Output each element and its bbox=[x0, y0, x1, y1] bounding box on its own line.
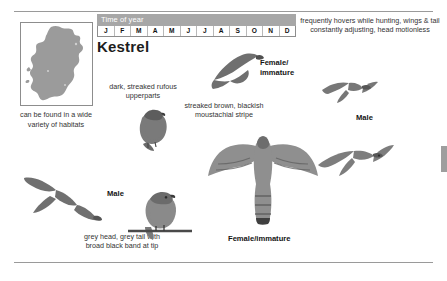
species-title: Kestrel bbox=[97, 38, 149, 55]
body bbox=[55, 190, 77, 206]
bird-male-flight-upper bbox=[318, 72, 380, 112]
tail-terminal-band bbox=[256, 218, 270, 225]
bird-female-immature-banking bbox=[208, 50, 266, 92]
distribution-map bbox=[20, 22, 93, 106]
bird-male-perched bbox=[126, 185, 194, 241]
month-cell: A bbox=[214, 26, 231, 36]
annotation-rufous-upperparts: dark, streaked rufous upperparts bbox=[98, 82, 188, 101]
map-dot-ne bbox=[75, 43, 77, 45]
month-cell: J bbox=[197, 26, 214, 36]
month-cell: M bbox=[131, 26, 148, 36]
tail bbox=[337, 90, 349, 103]
month-cell: M bbox=[164, 26, 181, 36]
month-cell: S bbox=[230, 26, 247, 36]
label-female-immature-top: Female/ immature bbox=[260, 58, 320, 77]
month-cell: N bbox=[263, 26, 280, 36]
field-guide-page: can be found in a wide variety of habita… bbox=[0, 0, 447, 281]
wing-upper bbox=[24, 178, 56, 192]
month-cell: J bbox=[181, 26, 198, 36]
ireland-landmass-shape bbox=[30, 26, 83, 100]
month-cell: F bbox=[115, 26, 132, 36]
ireland-coast-detail bbox=[26, 67, 32, 83]
eye bbox=[165, 196, 168, 199]
tail bbox=[339, 158, 355, 176]
bird-male-flight-left bbox=[20, 168, 106, 230]
eye bbox=[378, 155, 380, 157]
label-male-right: Male bbox=[356, 113, 373, 123]
page-edge-marker bbox=[441, 146, 447, 172]
body-tail bbox=[212, 80, 230, 89]
annotation-hovering-behaviour: frequently hovers while hunting, wings &… bbox=[300, 16, 440, 35]
tail bbox=[33, 196, 56, 213]
month-cell: J bbox=[98, 26, 115, 36]
tail bbox=[145, 227, 153, 240]
bottom-divider-rule bbox=[14, 262, 433, 263]
top-divider-rule bbox=[14, 11, 433, 12]
month-scale: J F M A M J J A S O N D bbox=[97, 26, 296, 37]
map-caption: can be found in a wide variety of habita… bbox=[10, 110, 102, 129]
month-cell: D bbox=[280, 26, 296, 36]
label-male-left: Male bbox=[107, 189, 124, 199]
body bbox=[348, 83, 363, 91]
body bbox=[353, 151, 374, 160]
wing-upper bbox=[214, 54, 258, 80]
month-cell: A bbox=[148, 26, 165, 36]
map-dot-se bbox=[64, 84, 66, 86]
time-of-year-chart: Time of year J F M A M J J A S O N D bbox=[97, 14, 296, 37]
annotation-moustachial-stripe: streaked brown, blackish moustachial str… bbox=[178, 101, 270, 120]
time-of-year-header: Time of year bbox=[97, 14, 296, 26]
month-cell: O bbox=[247, 26, 264, 36]
bird-male-gliding bbox=[316, 135, 396, 187]
head bbox=[256, 55, 264, 60]
tail bbox=[255, 184, 272, 224]
bird-female-immature-spread bbox=[204, 118, 322, 236]
map-dot-mid bbox=[47, 70, 49, 72]
bird-perched-streaked bbox=[128, 104, 180, 152]
head bbox=[257, 136, 269, 149]
